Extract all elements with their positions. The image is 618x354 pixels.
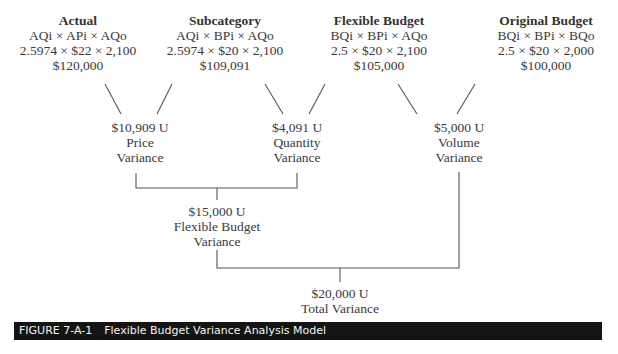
column-subcategory: Subcategory AQi × BPi × AQo 2.5974 × $20… — [167, 13, 283, 73]
column-title: Flexible Budget — [331, 13, 428, 28]
variance-amount: $4,091 U — [272, 120, 322, 135]
column-title: Subcategory — [167, 13, 283, 28]
column-values: 2.5 × $20 × 2,000 — [498, 43, 595, 58]
variance-amount: $10,909 U — [112, 120, 169, 135]
column-values: 2.5974 × $20 × 2,100 — [167, 43, 283, 58]
column-amount: $109,091 — [167, 58, 283, 73]
column-values: 2.5974 × $22 × 2,100 — [20, 43, 136, 58]
quantity-variance: $4,091 U Quantity Variance — [272, 120, 322, 165]
variance-label: Volume — [434, 135, 484, 150]
price-variance: $10,909 U Price Variance — [112, 120, 169, 165]
column-formula: AQi × APi × AQo — [20, 28, 136, 43]
column-title: Original Budget — [498, 13, 595, 28]
column-amount: $120,000 — [20, 58, 136, 73]
variance-label: Variance — [434, 150, 484, 165]
total-variance: $20,000 U Total Variance — [301, 286, 379, 316]
column-title: Actual — [20, 13, 136, 28]
volume-variance: $5,000 U Volume Variance — [434, 120, 484, 165]
variance-label: Variance — [112, 150, 169, 165]
column-original-budget: Original Budget BQi × BPi × BQo 2.5 × $2… — [498, 13, 595, 73]
figure-title: Flexible Budget Variance Analysis Model — [104, 324, 326, 337]
variance-amount: $5,000 U — [434, 120, 484, 135]
figure-caption: FIGURE 7-A-1Flexible Budget Variance Ana… — [14, 322, 602, 340]
variance-label: Quantity — [272, 135, 322, 150]
variance-amount: $20,000 U — [301, 286, 379, 301]
variance-label: Variance — [272, 150, 322, 165]
variance-amount: $15,000 U — [174, 204, 261, 219]
column-formula: AQi × BPi × AQo — [167, 28, 283, 43]
variance-label: Price — [112, 135, 169, 150]
column-actual: Actual AQi × APi × AQo 2.5974 × $22 × 2,… — [20, 13, 136, 73]
column-amount: $105,000 — [331, 58, 428, 73]
variance-label: Variance — [174, 234, 261, 249]
column-values: 2.5 × $20 × 2,100 — [331, 43, 428, 58]
variance-label: Flexible Budget — [174, 219, 261, 234]
column-amount: $100,000 — [498, 58, 595, 73]
variance-label: Total Variance — [301, 301, 379, 316]
flexible-budget-variance: $15,000 U Flexible Budget Variance — [174, 204, 261, 249]
column-formula: BQi × BPi × BQo — [498, 28, 595, 43]
column-formula: BQi × BPi × AQo — [331, 28, 428, 43]
column-flexible-budget: Flexible Budget BQi × BPi × AQo 2.5 × $2… — [331, 13, 428, 73]
figure-number: FIGURE 7-A-1 — [14, 324, 92, 337]
